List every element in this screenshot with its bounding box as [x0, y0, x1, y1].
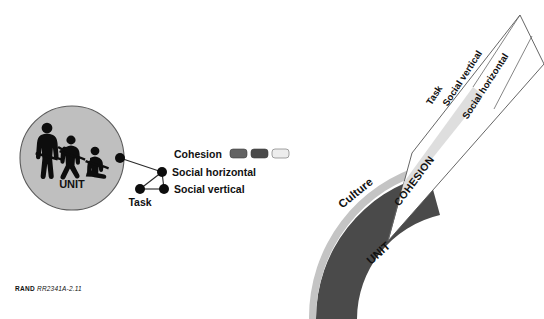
- social-vertical-swatch: [251, 149, 268, 158]
- legend-title: Cohesion: [174, 148, 222, 160]
- figure-canvas: UNIT Social horizontal Social vertical T…: [0, 0, 544, 319]
- social-horizontal-swatch: [272, 149, 289, 158]
- task-node[interactable]: [135, 184, 145, 194]
- task-swatch: [230, 149, 247, 158]
- cohesion-callout: Task Social vertical Social horizontal C…: [388, 15, 544, 241]
- caption-id: RR2341A-2.11: [37, 285, 82, 292]
- unit-circle-label: UNIT: [59, 178, 85, 190]
- figure-caption: RAND RR2341A-2.11: [15, 285, 82, 292]
- social-vertical-node[interactable]: [159, 184, 169, 194]
- right-panel: UNIT Culture Task Social vertical Social…: [309, 15, 544, 319]
- social-vertical-label: Social vertical: [174, 183, 245, 195]
- social-horizontal-label: Social horizontal: [172, 166, 256, 178]
- social-horizontal-node[interactable]: [157, 167, 167, 177]
- caption-prefix: RAND: [15, 285, 35, 292]
- network-nodes: [115, 153, 169, 194]
- callout-body: [388, 15, 544, 241]
- hub-node[interactable]: [115, 153, 125, 163]
- left-panel: UNIT Social horizontal Social vertical T…: [20, 106, 289, 210]
- task-label: Task: [128, 196, 151, 208]
- diagram-svg: UNIT Social horizontal Social vertical T…: [0, 0, 544, 319]
